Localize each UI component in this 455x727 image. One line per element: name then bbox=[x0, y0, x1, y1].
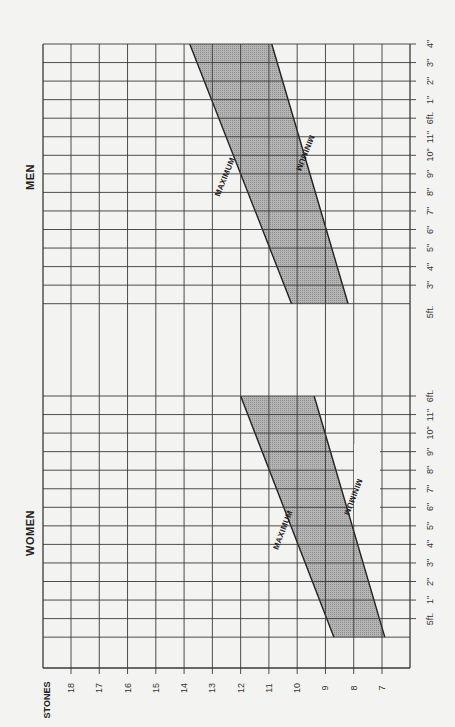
height-tick-label: 4" bbox=[425, 540, 435, 548]
stone-tick-label: 16 bbox=[123, 683, 133, 693]
weight-bands bbox=[190, 44, 385, 637]
stone-tick-label: 12 bbox=[236, 683, 246, 693]
stone-tick-label: 15 bbox=[151, 683, 161, 693]
height-tick-label: 3" bbox=[425, 559, 435, 567]
stone-tick-label: 18 bbox=[66, 683, 76, 693]
height-tick-label: 3" bbox=[425, 58, 435, 66]
height-tick-label: 9" bbox=[425, 170, 435, 178]
height-tick-label: 7" bbox=[425, 207, 435, 215]
stone-tick-label: 13 bbox=[207, 683, 217, 693]
stones-axis-title: STONES bbox=[42, 682, 52, 719]
height-tick-label: 10" bbox=[425, 426, 435, 439]
height-tick-label: 2" bbox=[425, 77, 435, 85]
stone-tick-label: 11 bbox=[264, 683, 274, 692]
height-tick-label: 4" bbox=[425, 262, 435, 270]
height-tick-label: 4" bbox=[425, 40, 435, 48]
stone-tick-label: 8 bbox=[349, 685, 359, 690]
height-tick-label: 9" bbox=[425, 448, 435, 456]
height-tick-label: 6" bbox=[425, 225, 435, 233]
stone-tick-label: 9 bbox=[320, 685, 330, 690]
height-tick-label: 5" bbox=[425, 522, 435, 530]
height-tick-label: 5" bbox=[425, 244, 435, 252]
height-tick-label: 7" bbox=[425, 485, 435, 493]
stone-tick-label: 14 bbox=[179, 683, 189, 693]
height-tick-label: 1" bbox=[425, 96, 435, 104]
height-tick-label: 1" bbox=[425, 596, 435, 604]
height-tick-label: 8" bbox=[425, 188, 435, 196]
height-tick-label: 10" bbox=[425, 149, 435, 162]
height-tick-label: 5ft. bbox=[425, 306, 435, 319]
stone-tick-label: 17 bbox=[94, 683, 104, 693]
height-tick-label: 6ft. bbox=[425, 390, 435, 403]
men-section-label: MEN bbox=[24, 164, 36, 190]
height-tick-label: 6" bbox=[425, 503, 435, 511]
height-tick-label: 5ft. bbox=[425, 612, 435, 625]
chart-canvas bbox=[0, 0, 455, 727]
height-tick-label: 3" bbox=[425, 281, 435, 289]
women-section-label: WOMEN bbox=[24, 510, 36, 556]
height-tick-label: 2" bbox=[425, 577, 435, 585]
height-tick-label: 11" bbox=[425, 130, 435, 143]
stone-tick-label: 7 bbox=[377, 685, 387, 690]
height-tick-label: 8" bbox=[425, 466, 435, 474]
stone-tick-label: 10 bbox=[292, 683, 302, 693]
height-tick-label: 6ft. bbox=[425, 112, 435, 125]
height-tick-label: 11" bbox=[425, 408, 435, 421]
